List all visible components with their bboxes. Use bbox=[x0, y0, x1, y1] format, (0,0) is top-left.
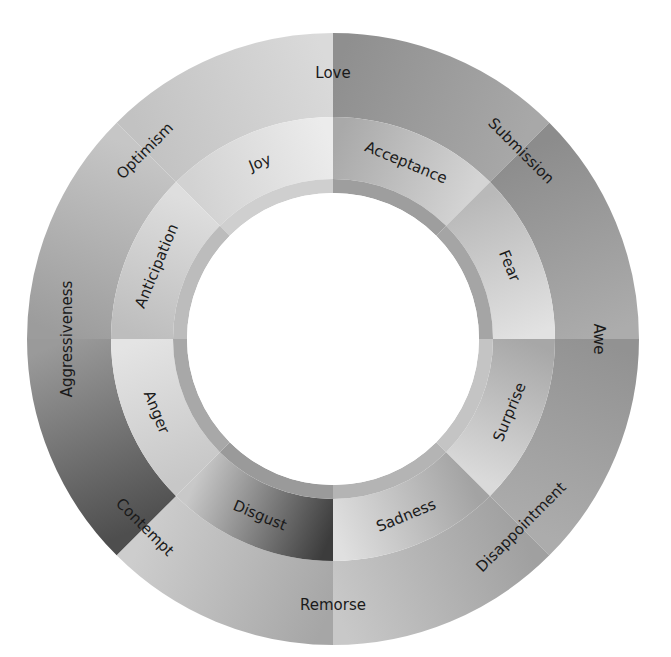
emotion-wheel: JoyAcceptanceFearSurpriseSadnessDisgustA… bbox=[0, 0, 671, 657]
label-love: Love bbox=[315, 64, 350, 82]
center-circle bbox=[187, 193, 479, 485]
label-remorse: Remorse bbox=[300, 596, 366, 614]
label-awe: Awe bbox=[590, 323, 608, 354]
label-aggressiveness: Aggressiveness bbox=[58, 280, 76, 397]
